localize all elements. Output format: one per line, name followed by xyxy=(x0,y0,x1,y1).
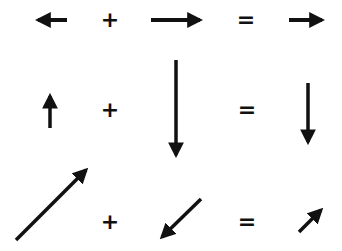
result-diagonal-up-right-arrow-icon xyxy=(299,210,321,232)
diagonal-up-right-arrow-icon xyxy=(16,170,86,240)
plus-operator-row2: + xyxy=(101,99,119,121)
plus-operator-row1: + xyxy=(101,9,119,31)
equals-operator-row1: = xyxy=(237,9,255,31)
equals-operator-row3: = xyxy=(238,211,256,233)
vector-diagram xyxy=(0,0,342,251)
diagonal-down-left-arrow-icon xyxy=(162,199,201,237)
plus-operator-row3: + xyxy=(101,211,119,233)
equals-operator-row2: = xyxy=(238,99,256,121)
